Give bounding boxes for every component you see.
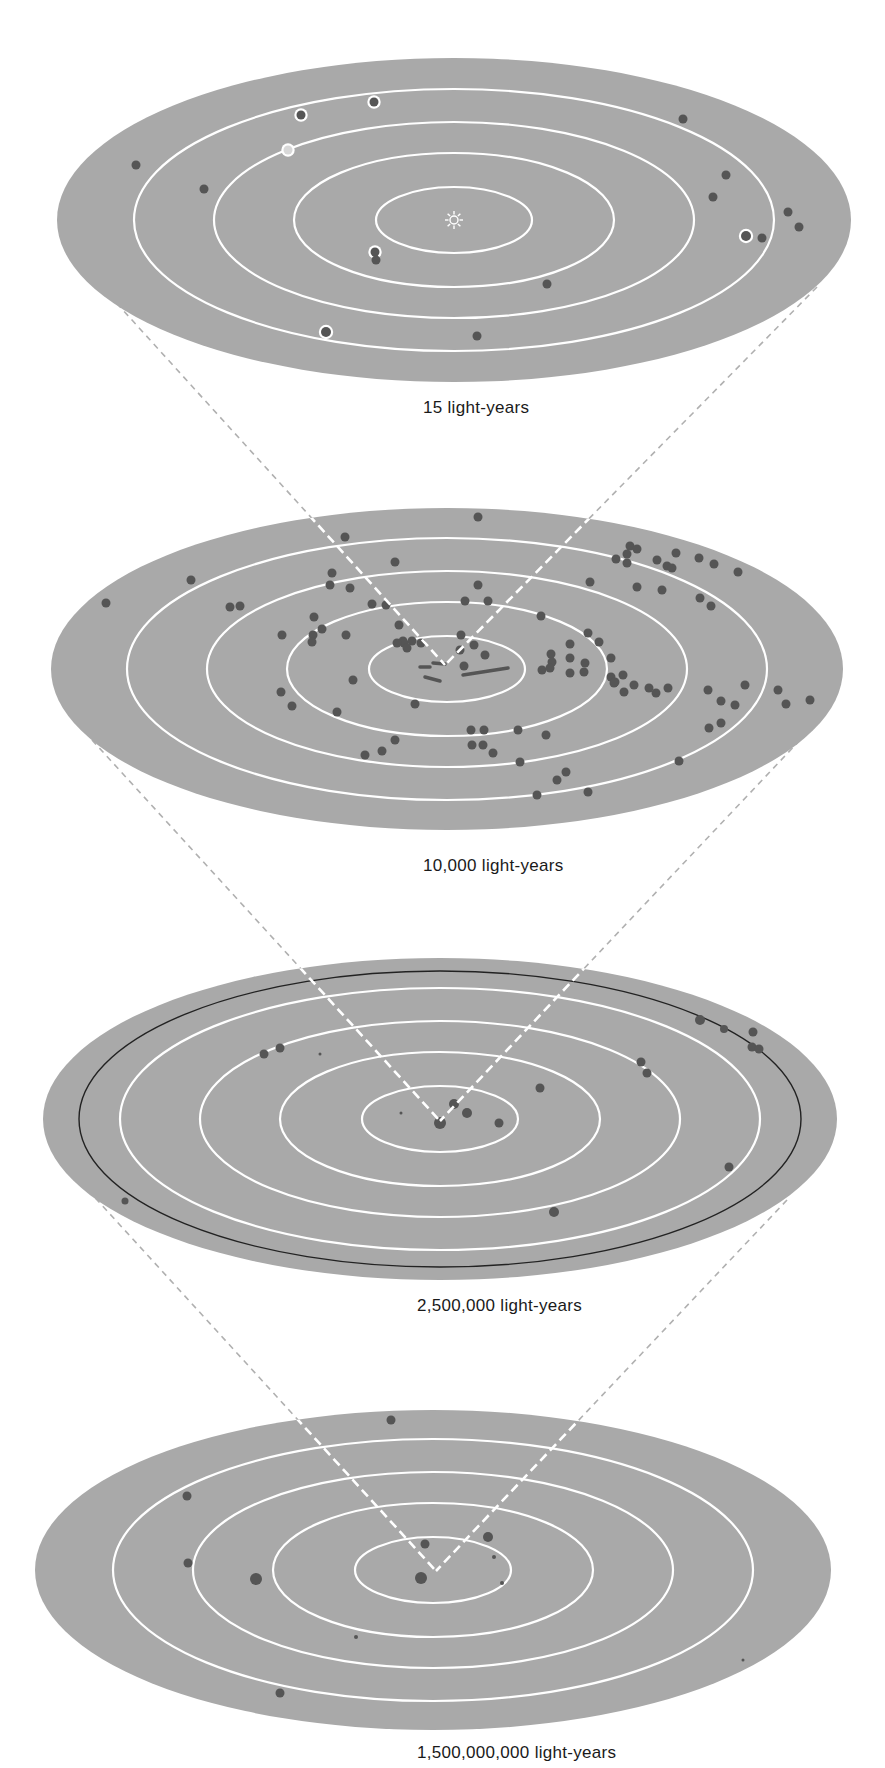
object-dot: [782, 700, 791, 709]
object-dot: [668, 564, 677, 573]
object-dot: [741, 681, 750, 690]
object-dot: [514, 726, 523, 735]
object-dot: [297, 111, 306, 120]
object-dot: [400, 1112, 403, 1115]
object-dot: [326, 581, 335, 590]
object-dot: [346, 584, 355, 593]
object-dot: [758, 234, 767, 243]
object-dot: [368, 600, 377, 609]
object-dot: [538, 666, 547, 675]
object-dot: [492, 1555, 496, 1559]
object-dot: [102, 599, 111, 608]
object-dot: [707, 602, 716, 611]
object-dot: [633, 583, 642, 592]
scale-diagram: [0, 0, 885, 1768]
object-dot: [720, 1025, 728, 1033]
object-dot: [581, 659, 590, 668]
object-dot: [200, 185, 209, 194]
object-dot: [342, 631, 351, 640]
object-dot: [333, 708, 342, 717]
object-dot: [276, 1689, 285, 1698]
object-dot: [679, 115, 688, 124]
object-dot: [722, 171, 731, 180]
disk: [51, 508, 843, 830]
object-dot: [664, 684, 673, 693]
object-dot: [607, 654, 616, 663]
object-dot: [415, 1572, 427, 1584]
object-dot: [349, 676, 358, 685]
connector-lines-outside: [88, 287, 817, 1571]
object-dot: [658, 586, 667, 595]
object-dot: [516, 758, 525, 767]
object-dot: [566, 669, 575, 678]
object-dot: [500, 1581, 504, 1585]
object-dot: [467, 726, 476, 735]
object-dot: [288, 702, 297, 711]
object-dot: [277, 688, 286, 697]
object-dot: [637, 1058, 646, 1067]
object-dot: [462, 1108, 472, 1118]
object-dot: [717, 697, 726, 706]
object-dot: [695, 554, 704, 563]
object-dot: [372, 256, 381, 265]
object-dot: [481, 651, 490, 660]
object-dot: [361, 751, 370, 760]
object-dot: [717, 719, 726, 728]
object-dot: [755, 1045, 764, 1054]
object-dot: [236, 602, 245, 611]
panel-local-group: [43, 958, 837, 1280]
object-dot: [460, 662, 469, 671]
object-dot: [226, 603, 235, 612]
object-dot: [742, 1659, 745, 1662]
object-dot: [470, 641, 479, 650]
object-dot: [584, 788, 593, 797]
object-dot: [479, 741, 488, 750]
object-dot: [704, 686, 713, 695]
object-dot: [630, 681, 639, 690]
object-dot: [566, 654, 575, 663]
object-dot: [457, 631, 466, 640]
object-dot: [695, 1015, 705, 1025]
object-dot: [709, 193, 718, 202]
object-dot: [184, 1559, 193, 1568]
object-dot: [611, 678, 620, 687]
object-dot: [122, 1198, 129, 1205]
object-dot: [321, 327, 331, 337]
object-dot: [411, 700, 420, 709]
object-dot: [474, 513, 483, 522]
object-dot: [308, 638, 317, 647]
object-dot: [652, 689, 661, 698]
object-dot: [795, 223, 804, 232]
object-dot: [580, 668, 589, 677]
panel-milky-way-neighborhood: [51, 508, 843, 830]
object-dot: [468, 741, 477, 750]
object-dot: [310, 613, 319, 622]
object-dot: [584, 629, 593, 638]
object-dot: [643, 1069, 652, 1078]
object-dot: [378, 747, 387, 756]
object-dot: [623, 559, 632, 568]
scale-label-1500000000-ly: 1,500,000,000 light-years: [417, 1743, 616, 1763]
object-dot: [474, 581, 483, 590]
object-dot: [653, 556, 662, 565]
object-dot: [284, 146, 293, 155]
object-dot: [675, 757, 684, 766]
panels: [35, 58, 851, 1730]
object-dot: [696, 594, 705, 603]
object-dot: [734, 568, 743, 577]
object-dot: [370, 98, 379, 107]
object-dot: [562, 768, 571, 777]
object-dot: [250, 1573, 262, 1585]
object-dot: [341, 533, 350, 542]
panel-universe-large-scale: [35, 1410, 831, 1730]
object-dot: [806, 696, 815, 705]
object-dot: [495, 1119, 504, 1128]
object-dot: [483, 1532, 493, 1542]
object-dot: [278, 631, 287, 640]
object-dot: [566, 640, 575, 649]
object-dot: [473, 332, 482, 341]
object-dot: [387, 1416, 396, 1425]
object-dot: [547, 650, 556, 659]
object-dot: [421, 1540, 430, 1549]
disk: [35, 1410, 831, 1730]
